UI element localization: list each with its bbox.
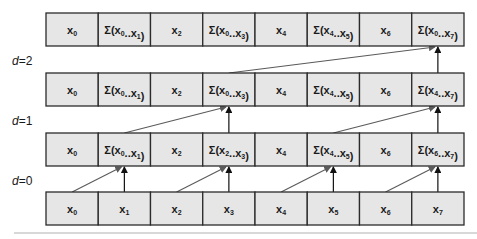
prefix-sum-upsweep-diagram: x0Σ(x0..x1)x2Σ(x0..x3)x4Σ(x4..x5)x6Σ(x0.… (0, 0, 477, 239)
array-cell: x5 (307, 192, 359, 225)
diagonal-arrow (386, 167, 435, 192)
row-input: x0x1x2x3x4x5x6x7 (46, 192, 464, 225)
edges-layer (72, 47, 438, 192)
array-cell: x0 (46, 192, 98, 225)
array-cell: x0 (46, 13, 98, 46)
array-cell: x4 (255, 192, 307, 225)
array-cell: Σ(x4..x5) (307, 133, 359, 166)
array-cell: x1 (98, 192, 150, 225)
array-cell: x0 (46, 73, 98, 106)
array-cell: Σ(x0..x1) (98, 13, 150, 46)
array-cell: x2 (151, 192, 203, 225)
array-cell: Σ(x0..x3) (203, 73, 255, 106)
diagonal-arrow (333, 107, 435, 133)
array-cell: x6 (360, 73, 412, 106)
array-cell: Σ(x0..x1) (98, 73, 150, 106)
level-label: d=0 (12, 174, 33, 188)
row-result-after-d1: x0Σ(x0..x1)x2Σ(x0..x3)x4Σ(x4..x5)x6Σ(x4.… (46, 73, 464, 106)
array-cell: x4 (255, 133, 307, 166)
array-cell: x3 (203, 192, 255, 225)
array-cell: Σ(x4..x7) (412, 73, 464, 106)
array-cell: x2 (151, 73, 203, 106)
level-label: d=1 (12, 114, 33, 128)
array-cell: Σ(x6..x7) (412, 133, 464, 166)
array-cell: Σ(x2..x3) (203, 133, 255, 166)
diagonal-arrow (229, 47, 435, 73)
array-cell: Σ(x4..x5) (307, 13, 359, 46)
array-cell: Σ(x4..x5) (307, 73, 359, 106)
array-cell: x7 (412, 192, 464, 225)
array-cell: x6 (360, 133, 412, 166)
level-label: d=2 (12, 54, 33, 68)
diagonal-arrow (281, 167, 330, 192)
array-cell: x6 (360, 192, 412, 225)
array-cell: x4 (255, 13, 307, 46)
array-cell: x0 (46, 133, 98, 166)
array-cell: x4 (255, 73, 307, 106)
array-cell: Σ(x0..x7) (412, 13, 464, 46)
diagonal-arrow (177, 167, 226, 192)
array-cell: Σ(x0..x3) (203, 13, 255, 46)
array-cell: x2 (151, 13, 203, 46)
row-result-after-d0: x0Σ(x0..x1)x2Σ(x2..x3)x4Σ(x4..x5)x6Σ(x6.… (46, 133, 464, 166)
diagonal-arrow (72, 167, 121, 192)
row-result-after-d2: x0Σ(x0..x1)x2Σ(x0..x3)x4Σ(x4..x5)x6Σ(x0.… (46, 13, 464, 46)
array-cell: x6 (360, 13, 412, 46)
rows-layer: x0Σ(x0..x1)x2Σ(x0..x3)x4Σ(x4..x5)x6Σ(x0.… (46, 13, 464, 225)
array-cell: Σ(x0..x1) (98, 133, 150, 166)
level-labels: d=0d=1d=2 (12, 54, 33, 188)
array-cell: x2 (151, 133, 203, 166)
diagonal-arrow (124, 107, 226, 133)
